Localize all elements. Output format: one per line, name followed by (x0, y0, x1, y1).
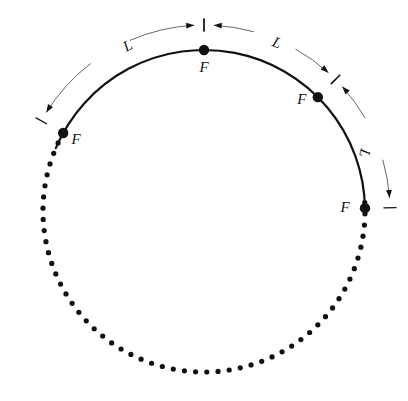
dimension-arc-segment (130, 25, 194, 40)
circle-dot (70, 301, 75, 306)
dimension-tick (36, 118, 47, 124)
circle-dot (204, 369, 209, 374)
circle-dot (358, 245, 363, 250)
figure-canvas: FFFFLLL (0, 0, 408, 401)
labels-group: FFFFLLL (71, 33, 374, 215)
dimension-l-left (36, 19, 204, 124)
circle-dot (171, 366, 176, 371)
point-f-right-upper[interactable] (313, 92, 323, 102)
point-f-right-lower-label: F (339, 199, 350, 215)
circle-dot (269, 354, 274, 359)
dimension-arrowhead (342, 87, 350, 95)
circle-dot (41, 217, 46, 222)
circle-dot (315, 322, 320, 327)
dimension-arcs-group (36, 19, 397, 208)
circle-dot (182, 368, 187, 373)
point-f-top[interactable] (199, 45, 209, 55)
circle-dot (238, 365, 243, 370)
circle-dot (336, 296, 341, 301)
point-f-left-label: F (71, 131, 82, 147)
circle-dot (49, 261, 54, 266)
circle-dot (138, 357, 143, 362)
circle-dot (298, 337, 303, 342)
dimension-arrowhead (46, 104, 53, 112)
circle-dot (40, 206, 45, 211)
circle-dot (227, 367, 232, 372)
point-f-left[interactable] (58, 128, 68, 138)
circle-dot (360, 234, 365, 239)
circle-dot (41, 194, 46, 199)
circle-dot (362, 222, 367, 227)
dimension-l-right-lower-label: L (356, 146, 374, 159)
circle-dot (355, 255, 360, 260)
dimension-l-top-right-label: L (269, 33, 284, 51)
circle-dot (279, 349, 284, 354)
dimension-arrowhead (386, 190, 392, 198)
circle-dot (58, 281, 63, 286)
circle-dot (63, 291, 68, 296)
dimension-arrowhead (321, 65, 329, 73)
circle-dot (330, 305, 335, 310)
solid-arc-group (56, 50, 365, 208)
circle-dot (45, 172, 50, 177)
point-f-right-lower[interactable] (360, 203, 370, 213)
dimension-tick (331, 75, 340, 84)
circle-arc-length-diagram: FFFFLLL (0, 0, 408, 401)
circle-dot (43, 239, 48, 244)
circle-dot (47, 161, 52, 166)
circle-dot (51, 151, 56, 156)
circle-dot (84, 318, 89, 323)
point-f-top-label: F (198, 59, 209, 75)
circle-dot (352, 266, 357, 271)
solid-arc (56, 50, 365, 208)
circle-dot (215, 369, 220, 374)
circle-dot (46, 250, 51, 255)
point-f-right-upper-label: F (296, 91, 307, 107)
dimension-arrowhead (214, 23, 222, 29)
circle-dot (100, 334, 105, 339)
circle-dot (109, 340, 114, 345)
dimension-arrowhead (186, 23, 194, 29)
circle-dot (118, 346, 123, 351)
circle-dot (42, 228, 47, 233)
circle-dot (76, 310, 81, 315)
dotted-circle-group (40, 140, 367, 374)
circle-dot (248, 362, 253, 367)
circle-dot (149, 361, 154, 366)
circle-dot (193, 369, 198, 374)
circle-dot (289, 343, 294, 348)
circle-dot (128, 352, 133, 357)
circle-dot (307, 330, 312, 335)
circle-dot (259, 359, 264, 364)
circle-dot (342, 286, 347, 291)
circle-dot (42, 183, 47, 188)
circle-dot (92, 326, 97, 331)
circle-dot (53, 271, 58, 276)
circle-dot (323, 314, 328, 319)
circle-dot (347, 276, 352, 281)
circle-dot (160, 364, 165, 369)
